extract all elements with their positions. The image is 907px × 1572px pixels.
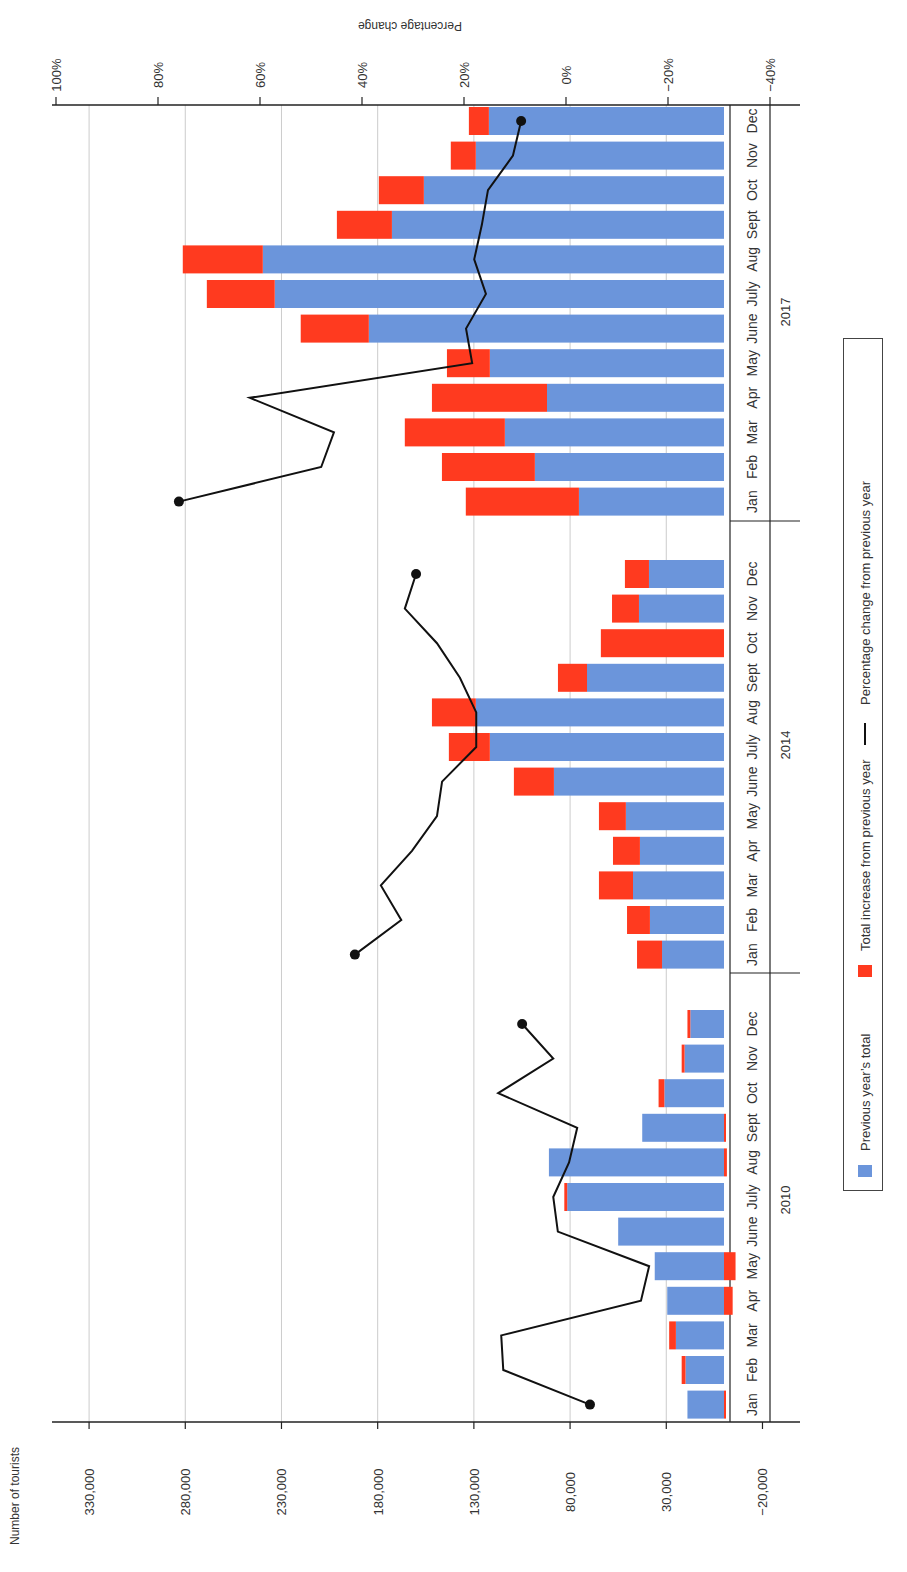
y-tick-label: 230,000 — [274, 1469, 289, 1516]
bar-previous-total — [642, 1114, 724, 1142]
month-label: Jan — [744, 1393, 760, 1416]
bar-increase — [627, 906, 650, 934]
y2-tick-label: −20% — [661, 58, 676, 92]
month-label: Apr — [744, 840, 760, 862]
month-label: Mar — [744, 873, 760, 897]
bar-previous-total — [535, 453, 724, 481]
bar-previous-total — [392, 211, 724, 239]
month-label: Apr — [744, 1290, 760, 1312]
y2-tick-label: 20% — [457, 62, 472, 88]
y-tick-label: 330,000 — [82, 1469, 97, 1516]
bar-increase — [682, 1356, 686, 1384]
bar-increase — [469, 107, 489, 135]
bar-decrease — [724, 1391, 726, 1419]
bar-increase — [599, 871, 633, 899]
month-label: Mar — [744, 1323, 760, 1347]
bar-increase — [466, 488, 579, 516]
bar-increase — [451, 142, 476, 170]
bar-previous-total — [263, 245, 724, 273]
tourist-chart: 330,000280,000230,000180,000130,00080,00… — [0, 0, 907, 1572]
y2-tick-label: −40% — [763, 58, 778, 92]
y-tick-label: −20,000 — [755, 1468, 770, 1515]
bar-increase — [432, 384, 547, 412]
month-label: Nov — [744, 143, 760, 168]
bar-previous-total — [626, 802, 724, 830]
bar-increase — [599, 802, 626, 830]
percent-change-line — [498, 1024, 649, 1405]
bar-previous-total — [687, 1391, 724, 1419]
bar-previous-total — [690, 1010, 724, 1038]
month-label: Jan — [744, 943, 760, 966]
bar-increase — [669, 1321, 676, 1349]
month-label: Sept — [744, 663, 760, 692]
bar-increase — [637, 941, 662, 969]
bar-decrease — [724, 1252, 736, 1280]
bar-previous-total — [579, 488, 724, 516]
line-end-dot — [516, 116, 526, 126]
bar-previous-total — [639, 595, 724, 623]
bar-increase — [682, 1045, 685, 1073]
bar-previous-total — [476, 698, 724, 726]
y-tick-label: 80,000 — [563, 1472, 578, 1512]
y2-tick-label: 100% — [49, 58, 64, 92]
y2-tick-label: 0% — [559, 65, 574, 84]
month-label: July — [744, 735, 760, 760]
bar-increase — [625, 560, 649, 588]
legend-label-prev: Previous year’s total — [858, 1034, 873, 1151]
month-label: May — [744, 803, 760, 829]
bar-previous-total — [424, 176, 724, 204]
top-axis-title: Percentage change — [358, 19, 462, 33]
bar-previous-total — [650, 906, 724, 934]
bar-increase — [405, 418, 505, 446]
month-label: Nov — [744, 1046, 760, 1071]
bar-decrease — [724, 1148, 727, 1176]
left-axis-title: Number of tourists — [8, 1447, 22, 1545]
month-label: Feb — [744, 1358, 760, 1382]
bar-previous-total — [662, 941, 724, 969]
month-label: May — [744, 350, 760, 376]
y2-tick-label: 60% — [253, 62, 268, 88]
bar-previous-total — [554, 768, 724, 796]
bar-increase — [207, 280, 275, 308]
month-label: Aug — [744, 1150, 760, 1175]
year-label: 2010 — [778, 1186, 793, 1215]
bar-previous-total — [633, 871, 724, 899]
bar-increase — [601, 629, 724, 657]
bar-increase — [558, 664, 587, 692]
bar-increase — [612, 595, 639, 623]
month-label: Aug — [744, 247, 760, 272]
bar-previous-total — [549, 1148, 724, 1176]
bar-previous-total — [667, 1287, 724, 1315]
month-label: Dec — [744, 562, 760, 587]
y-tick-label: 130,000 — [467, 1469, 482, 1516]
bar-increase — [379, 176, 424, 204]
bar-decrease — [724, 1114, 726, 1142]
month-label: Dec — [744, 109, 760, 134]
month-label: Apr — [744, 387, 760, 409]
month-label: Oct — [744, 179, 760, 201]
bar-increase — [449, 733, 490, 761]
bar-previous-total — [567, 1183, 724, 1211]
bar-previous-total — [685, 1045, 724, 1073]
y2-tick-label: 80% — [151, 62, 166, 88]
legend-swatch-line — [864, 723, 866, 745]
month-label: Jan — [744, 490, 760, 513]
month-label: Mar — [744, 420, 760, 444]
y-tick-label: 280,000 — [178, 1469, 193, 1516]
bar-increase — [659, 1079, 665, 1107]
line-start-dot — [350, 950, 360, 960]
bar-increase — [613, 837, 640, 865]
month-label: Dec — [744, 1012, 760, 1037]
bar-previous-total — [275, 280, 724, 308]
month-label: May — [744, 1253, 760, 1279]
bar-increase — [432, 698, 476, 726]
y2-tick-label: 40% — [355, 62, 370, 88]
legend-swatch-increase — [858, 965, 872, 977]
month-label: Feb — [744, 455, 760, 479]
bar-previous-total — [686, 1356, 724, 1384]
year-label: 2014 — [778, 731, 793, 760]
bar-increase — [183, 245, 263, 273]
bar-previous-total — [655, 1252, 724, 1280]
month-label: Oct — [744, 1082, 760, 1104]
month-label: June — [744, 766, 760, 797]
